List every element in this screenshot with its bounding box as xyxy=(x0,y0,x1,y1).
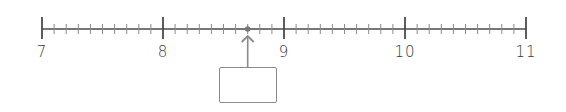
tick-label-7: 7 xyxy=(37,43,48,61)
answer-box[interactable] xyxy=(219,67,277,103)
tick-label-10: 10 xyxy=(394,43,415,61)
tick-label-9: 9 xyxy=(279,43,290,61)
tick-label-11: 11 xyxy=(515,43,536,61)
marked-point-dot xyxy=(245,26,251,32)
number-line-diagram: 7891011 xyxy=(0,0,566,112)
tick-label-8: 8 xyxy=(158,43,169,61)
